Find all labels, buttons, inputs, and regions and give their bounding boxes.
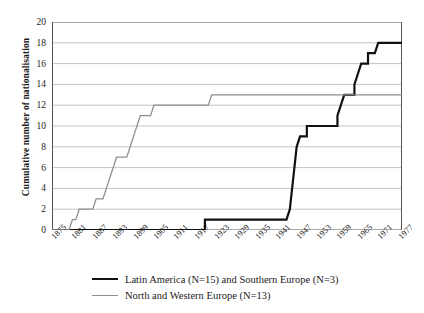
chart-legend: Latin America (N=15) and Southern Europe… — [92, 271, 339, 303]
series-line-1 — [52, 95, 402, 230]
y-tick-label: 14 — [22, 79, 46, 89]
y-tick-label: 4 — [22, 183, 46, 193]
legend-label: Latin America (N=15) and Southern Europe… — [125, 274, 339, 285]
legend-label: North and Western Europe (N=13) — [125, 290, 270, 301]
y-tick-label: 2 — [22, 204, 46, 214]
y-tick-label: 16 — [22, 59, 46, 69]
legend-entry: North and Western Europe (N=13) — [92, 287, 339, 303]
y-tick-label: 6 — [22, 163, 46, 173]
plot-area — [52, 22, 402, 230]
y-tick-label: 20 — [22, 17, 46, 27]
legend-line-swatch — [92, 295, 118, 296]
legend-entry: Latin America (N=15) and Southern Europe… — [92, 271, 339, 287]
chart-canvas — [52, 22, 402, 230]
y-tick-label: 8 — [22, 142, 46, 152]
y-tick-label: 18 — [22, 38, 46, 48]
y-tick-label: 0 — [22, 225, 46, 235]
series-line-0 — [52, 43, 402, 230]
y-tick-label: 10 — [22, 121, 46, 131]
y-tick-label: 12 — [22, 100, 46, 110]
legend-line-swatch — [92, 278, 118, 280]
chart-figure: Cumulative number of nationalisation 024… — [0, 0, 424, 313]
